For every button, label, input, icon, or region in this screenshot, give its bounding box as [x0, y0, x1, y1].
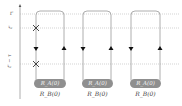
arrow-down-icon: [34, 47, 39, 51]
contour-loop-1: [36, 11, 64, 80]
axis-label-top: t': [10, 10, 13, 16]
contour-loop-2: [83, 11, 111, 80]
axis-arrow-icon: [19, 4, 22, 7]
state-oval-2: R_A(0): [82, 79, 113, 88]
arrow-up-icon: [109, 46, 114, 50]
sub-label-1: R_B(0): [34, 90, 66, 97]
axis-label-upper: t': [7, 25, 13, 28]
axis-label-lower: t' − τ: [6, 54, 12, 68]
arrow-down-icon: [81, 47, 86, 51]
arrow-up-icon: [62, 46, 67, 50]
state-oval-3: R_A(0): [130, 79, 161, 88]
contour-loop-3: [131, 11, 160, 80]
state-oval-1: R_A(0): [34, 79, 66, 88]
sub-label-3: R_B(0): [130, 90, 161, 97]
arrow-up-icon: [158, 46, 163, 50]
arrow-down-icon: [129, 47, 134, 51]
sub-label-2: R_B(0): [82, 90, 113, 97]
